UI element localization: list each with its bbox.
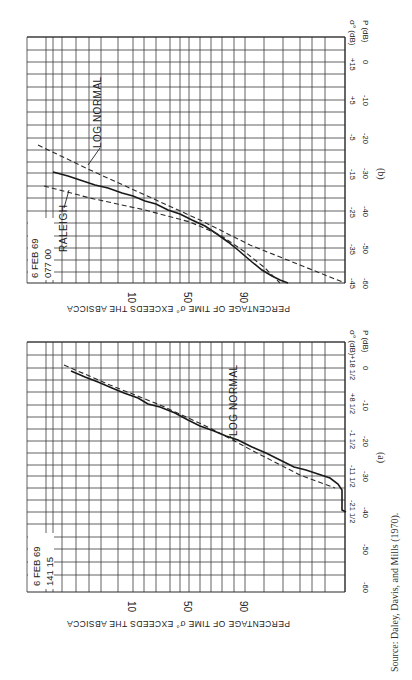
svg-text:-5: -5: [348, 134, 357, 141]
svg-text:-15: -15: [348, 169, 357, 180]
svg-text:-30: -30: [361, 168, 370, 179]
chart-b-x-tick-90: 90: [238, 292, 249, 304]
chart-b-sigma-ticks: +15 +5 -5 -15 -25 -35 -45: [348, 58, 357, 289]
svg-text:+15: +15: [348, 58, 357, 71]
svg-text:-10: -10: [361, 400, 370, 411]
chart-a-sigma-ticks: +18 1/2 +8 1/2 -1 1/2 -11 1/2 -21 1/2: [348, 355, 357, 523]
chart-b-time: 077 00: [42, 249, 53, 278]
svg-text:-50: -50: [361, 544, 370, 555]
svg-text:-25: -25: [348, 207, 357, 218]
chart-b-measured-curve: [53, 172, 288, 283]
svg-text:-60: -60: [361, 582, 370, 593]
svg-text:-10: -10: [361, 95, 370, 106]
svg-text:-20: -20: [361, 436, 370, 447]
chart-a-panel-label: (a): [375, 452, 387, 463]
chart-b-pr-unit: P (dB): [361, 20, 370, 43]
chart-b-log-normal-leader: [88, 148, 100, 165]
chart-b-raleigh-label: RALEIGH: [58, 205, 69, 252]
chart-a-horizontal-grid: [27, 342, 345, 592]
chart-a-x-tick-90: 90: [238, 601, 249, 613]
svg-text:-40: -40: [361, 507, 370, 518]
svg-text:-20: -20: [361, 133, 370, 144]
chart-b-pr-ticks: 0 -10 -20 -30 -40 -50 -60: [361, 60, 370, 289]
svg-text:+5: +5: [348, 96, 357, 105]
chart-a-pr-unit: P (dB): [361, 330, 370, 353]
svg-text:+18 1/2: +18 1/2: [348, 355, 357, 380]
chart-a-sigma-unit: σ° (dB): [348, 330, 357, 356]
chart-b-panel-label: (b): [375, 168, 387, 180]
svg-text:-1 1/2: -1 1/2: [348, 430, 357, 449]
svg-text:-30: -30: [361, 471, 370, 482]
chart-a-date: 6 FEB 69: [31, 546, 42, 586]
chart-b-date: 6 FEB 69: [29, 238, 40, 278]
chart-a-x-axis-title: PERCENTAGE OF TIME σ° EXCEEDS THE ABSICC…: [67, 619, 290, 629]
chart-b-x-tick-50: 50: [182, 292, 193, 304]
chart-b-x-tick-10: 10: [126, 292, 137, 304]
chart-a-time: 141 15: [44, 557, 55, 586]
chart-b: LOG NORMAL RALEIGH 6 FEB 69 077 00 10 50…: [27, 20, 387, 314]
chart-a-vertical-grid: [27, 342, 345, 592]
svg-text:-45: -45: [348, 278, 357, 289]
svg-text:0: 0: [361, 60, 370, 64]
svg-text:-11 1/2: -11 1/2: [348, 465, 357, 488]
svg-text:+8 1/2: +8 1/2: [348, 393, 357, 414]
svg-text:-21 1/2: -21 1/2: [348, 500, 357, 523]
chart-a-x-tick-10: 10: [126, 601, 137, 613]
chart-b-log-normal-label: LOG NORMAL: [92, 76, 103, 148]
svg-text:-50: -50: [361, 243, 370, 254]
svg-text:-60: -60: [361, 278, 370, 289]
svg-text:-40: -40: [361, 206, 370, 217]
svg-text:0: 0: [361, 366, 370, 370]
chart-a-log-normal-label: LOG NORMAL: [228, 364, 239, 436]
figure: LOG NORMAL RALEIGH 6 FEB 69 077 00 10 50…: [0, 0, 412, 680]
chart-b-log-normal-curve: [38, 145, 345, 283]
chart-a-pr-ticks: 0 -10 -20 -30 -40 -50 -60: [361, 366, 370, 593]
chart-b-horizontal-grid: [27, 37, 345, 283]
chart-b-sigma-unit: σ° (dB): [348, 20, 357, 46]
chart-a: LOG NORMAL 6 FEB 69 141 15 10 50 90 PERC…: [27, 330, 387, 629]
chart-a-x-tick-50: 50: [182, 601, 193, 613]
svg-text:-35: -35: [348, 244, 357, 255]
source-caption: Source: Daley, Davis, and Mills (1970).: [389, 513, 401, 672]
chart-b-x-axis-title: PERCENTAGE OF TIME σ° EXCEEDS THE ABSICC…: [67, 304, 290, 314]
